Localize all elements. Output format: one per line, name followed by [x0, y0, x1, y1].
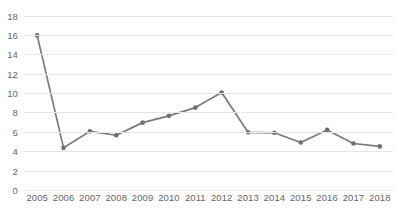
data-point-marker	[114, 132, 119, 137]
data-point-marker	[140, 120, 145, 125]
x-axis-tick-label: 2005	[26, 192, 48, 203]
y-axis-tick-label: 8	[0, 107, 18, 118]
gridline	[24, 112, 393, 113]
x-axis-tick-label: 2013	[237, 192, 259, 203]
y-axis-tick-label: 4	[0, 146, 18, 157]
y-axis-tick-label: 6	[0, 126, 18, 137]
y-axis-tick-label: 18	[0, 10, 18, 21]
x-axis-tick-label: 2009	[132, 192, 154, 203]
x-axis-tick-label: 2018	[369, 192, 391, 203]
x-axis-tick-label: 2008	[105, 192, 127, 203]
gridline	[24, 54, 393, 55]
gridline	[24, 93, 393, 94]
x-axis-tick-label: 2017	[343, 192, 365, 203]
x-axis: 2005200620072008200920102011201220132014…	[24, 192, 393, 208]
plot-area	[24, 16, 393, 191]
data-point-marker	[351, 141, 356, 146]
x-axis-tick-label: 2012	[211, 192, 233, 203]
x-axis-tick-label: 2010	[158, 192, 180, 203]
y-axis-tick-label: 0	[0, 185, 18, 196]
x-axis-tick-label: 2006	[53, 192, 75, 203]
data-point-marker	[378, 144, 383, 149]
gridline	[24, 190, 393, 191]
y-axis-tick-label: 10	[0, 88, 18, 99]
data-point-marker	[167, 113, 172, 118]
y-axis-tick-label: 12	[0, 68, 18, 79]
gridline	[24, 16, 393, 17]
gridline	[24, 171, 393, 172]
x-axis-tick-label: 2007	[79, 192, 101, 203]
data-point-marker	[298, 140, 303, 145]
x-axis-tick-label: 2014	[264, 192, 286, 203]
gridline	[24, 74, 393, 75]
y-axis-tick-label: 2	[0, 165, 18, 176]
gridline	[24, 151, 393, 152]
gridline	[24, 132, 393, 133]
series-line	[24, 16, 393, 191]
data-point-marker	[61, 145, 66, 150]
line-chart: 2005200620072008200920102011201220132014…	[0, 0, 397, 209]
x-axis-tick-label: 2011	[185, 192, 206, 203]
y-axis-tick-label: 14	[0, 49, 18, 60]
x-axis-tick-label: 2016	[316, 192, 338, 203]
y-axis-tick-label: 16	[0, 29, 18, 40]
gridline	[24, 35, 393, 36]
x-axis-tick-label: 2015	[290, 192, 312, 203]
data-point-marker	[193, 105, 198, 110]
